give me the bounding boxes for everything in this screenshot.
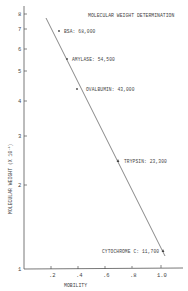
x-tick-label: .8	[130, 272, 137, 279]
y-tick-label: 5	[18, 68, 21, 75]
y-axis-ticks	[24, 14, 27, 185]
molecular-weight-chart: MOLECULAR WEIGHT DETERMINATION 8 7 6 5 4…	[0, 0, 188, 291]
point-label: BSA: 68,000	[64, 29, 96, 34]
dot-marker-icon	[66, 58, 68, 60]
svg-text:MOLECULAR WEIGHT (X 10-4): MOLECULAR WEIGHT (X 10-4)	[7, 143, 13, 214]
y-tick-label: 3	[18, 133, 21, 140]
y-tick-label: 4	[18, 98, 22, 105]
data-point-ovalbumin: OVALBUMIN: 43,000	[76, 87, 135, 92]
x-tick-label: 1.0	[157, 272, 167, 279]
y-tick-label: 6	[18, 46, 21, 53]
dot-marker-icon	[58, 30, 60, 32]
x-tick-label: .6	[103, 272, 110, 279]
y-tick-label: 7	[18, 26, 21, 33]
x-axis	[24, 268, 183, 269]
y-axis-title-main: MOLECULAR WEIGHT (X 10	[8, 151, 13, 214]
fit-line	[46, 18, 165, 256]
point-label: AMYLASE: 54,500	[72, 57, 115, 62]
y-tick-label: 1	[18, 266, 22, 273]
y-tick-label: 2	[18, 182, 21, 189]
data-point-trypsin: TRYPSIN: 23,300	[117, 159, 167, 164]
y-tick-label: 8	[18, 11, 21, 18]
chart-title: MOLECULAR WEIGHT DETERMINATION	[88, 13, 174, 18]
point-label: CYTOCHROME C: 11,700	[102, 249, 159, 254]
point-label: TRYPSIN: 23,300	[124, 159, 167, 164]
y-axis-title: MOLECULAR WEIGHT (X 10-4)	[7, 143, 13, 214]
dot-marker-icon	[76, 88, 78, 90]
data-point-cytochrome-c: CYTOCHROME C: 11,700	[102, 249, 164, 254]
x-axis-title: MOBILITY	[64, 283, 87, 288]
x-axis-tick-labels: .2 .4 .6 .8 1.0	[49, 272, 167, 279]
y-axis-title-close: )	[8, 143, 13, 146]
x-tick-label: .2	[49, 272, 56, 279]
data-point-bsa: BSA: 68,000	[58, 29, 95, 34]
x-tick-label: .4	[76, 272, 83, 279]
data-point-amylase: AMYLASE: 54,500	[66, 57, 115, 62]
y-axis-tick-labels: 8 7 6 5 4 3 2 1	[18, 11, 22, 273]
point-label: OVALBUMIN: 43,000	[86, 87, 135, 92]
